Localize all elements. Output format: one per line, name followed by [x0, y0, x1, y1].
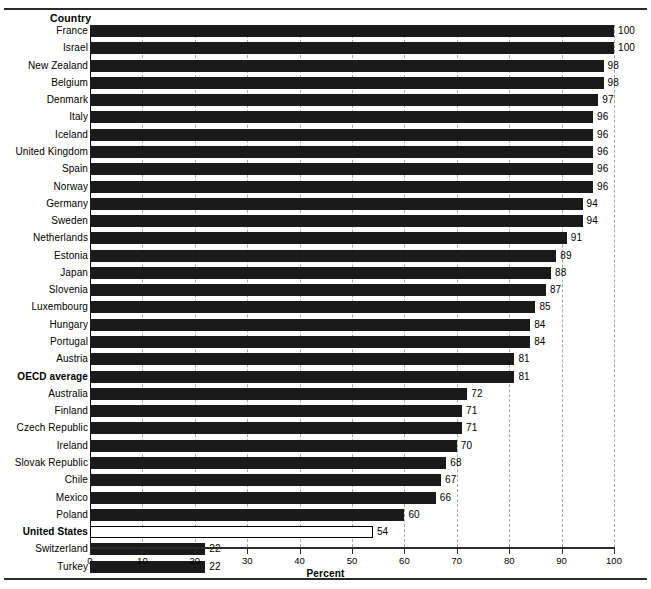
bar-row: Switzerland22	[0, 543, 651, 555]
category-label: New Zealand	[28, 60, 88, 72]
bar-value-label: 100	[618, 25, 635, 37]
bar	[90, 77, 604, 89]
bar	[90, 94, 598, 106]
bar	[90, 319, 530, 331]
bar	[90, 146, 593, 158]
bar-row: Poland60	[0, 509, 651, 521]
x-tick-30	[247, 549, 248, 554]
column-header-country: Country	[50, 12, 91, 24]
category-label: Iceland	[55, 129, 88, 141]
bar-value-label: 94	[587, 215, 598, 227]
bar-row: Czech Republic71	[0, 422, 651, 434]
bar	[90, 198, 583, 210]
category-label: Poland	[56, 509, 88, 521]
bar-value-label: 96	[597, 146, 608, 158]
bar	[90, 284, 546, 296]
x-tick-10	[142, 549, 143, 554]
bar-row: Israel100	[0, 42, 651, 54]
bar-row: Slovak Republic68	[0, 457, 651, 469]
x-tick-70	[457, 549, 458, 554]
bar-value-label: 67	[445, 474, 456, 486]
bottom-rule	[4, 578, 647, 580]
category-label: Slovenia	[49, 284, 88, 296]
bar-row: Norway96	[0, 181, 651, 193]
category-label: Australia	[48, 388, 88, 400]
bar-row: Luxembourg85	[0, 301, 651, 313]
bar-row: Germany94	[0, 198, 651, 210]
x-tick-label-60: 60	[389, 555, 419, 566]
bar-row: New Zealand98	[0, 60, 651, 72]
bar	[90, 181, 593, 193]
bar	[90, 250, 556, 262]
bar-row: Japan88	[0, 267, 651, 279]
bar-value-label: 71	[466, 422, 477, 434]
x-tick-label-40: 40	[285, 555, 315, 566]
category-label: Norway	[54, 181, 89, 193]
bar-row: United Kingdom96	[0, 146, 651, 158]
bar	[90, 215, 583, 227]
bar-value-label: 96	[597, 129, 608, 141]
x-tick-90	[562, 549, 563, 554]
bar-value-label: 22	[209, 543, 220, 555]
bar-value-label: 96	[597, 181, 608, 193]
x-tick-60	[404, 549, 405, 554]
x-tick-label-30: 30	[232, 555, 262, 566]
bar-row: Austria81	[0, 353, 651, 365]
bar	[90, 371, 514, 383]
bar-row: Sweden94	[0, 215, 651, 227]
category-label: Spain	[62, 163, 88, 175]
x-tick-label-50: 50	[337, 555, 367, 566]
bar	[90, 336, 530, 348]
bar-row: Australia72	[0, 388, 651, 400]
category-label: Sweden	[51, 215, 88, 227]
bar-row: Portugal84	[0, 336, 651, 348]
bar-value-label: 98	[608, 77, 619, 89]
bar	[90, 457, 446, 469]
category-label: Czech Republic	[17, 422, 88, 434]
bar-row: Spain96	[0, 163, 651, 175]
clipped-figure-title	[4, 0, 647, 6]
bar-row: Hungary84	[0, 319, 651, 331]
x-tick-label-80: 80	[494, 555, 524, 566]
x-tick-40	[300, 549, 301, 554]
top-rule	[4, 8, 647, 10]
bar	[90, 474, 441, 486]
bar	[90, 440, 457, 452]
bar-row: Ireland70	[0, 440, 651, 452]
bar-value-label: 66	[440, 492, 451, 504]
bar-row: Estonia89	[0, 250, 651, 262]
category-label: Israel	[63, 42, 88, 54]
bar	[90, 422, 462, 434]
bar-value-label: 96	[597, 111, 608, 123]
bar-value-label: 71	[466, 405, 477, 417]
x-tick-100	[614, 549, 615, 554]
category-label: Finland	[55, 405, 89, 417]
category-label: Hungary	[50, 319, 89, 331]
category-label: Portugal	[50, 336, 88, 348]
bar-row: Finland71	[0, 405, 651, 417]
bar-row: Belgium98	[0, 77, 651, 89]
bar	[90, 301, 535, 313]
bar-row: Italy96	[0, 111, 651, 123]
x-tick-label-10: 10	[127, 555, 157, 566]
bar-row: OECD average81	[0, 371, 651, 383]
category-label: Germany	[46, 198, 88, 210]
bar	[90, 405, 462, 417]
category-label: Switzerland	[35, 543, 88, 555]
category-label: United Kingdom	[15, 146, 88, 158]
x-tick-label-70: 70	[442, 555, 472, 566]
bar	[90, 25, 614, 37]
x-tick-label-0: 0	[75, 555, 105, 566]
bar-value-label: 88	[555, 267, 566, 279]
bar-value-label: 100	[618, 42, 635, 54]
bar-value-label: 81	[518, 371, 529, 383]
category-label: Netherlands	[33, 232, 88, 244]
bar-value-label: 91	[571, 232, 582, 244]
category-label: Ireland	[57, 440, 88, 452]
bar	[90, 111, 593, 123]
category-label: Mexico	[56, 492, 88, 504]
category-label: Chile	[65, 474, 88, 486]
bar-row: United States54	[0, 526, 651, 538]
bar	[90, 509, 404, 521]
x-tick-label-90: 90	[547, 555, 577, 566]
